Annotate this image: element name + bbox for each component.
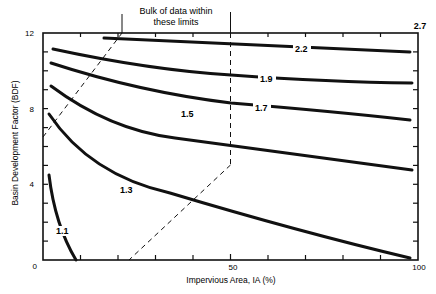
corner-label: 2.7 — [414, 21, 427, 31]
y-tick-4: 4 — [30, 180, 35, 189]
y-tick-12: 12 — [25, 29, 34, 38]
curve-1.5 — [51, 86, 412, 170]
y-tick-0: 0 — [33, 262, 38, 271]
svg-text:1.7: 1.7 — [255, 103, 268, 113]
svg-text:2.2: 2.2 — [295, 44, 308, 54]
y-tick-8: 8 — [30, 105, 35, 114]
x-tick-50: 50 — [229, 263, 238, 272]
data-limits — [43, 12, 231, 260]
chart: 2.2 1.9 1.7 1.5 1.3 1.1 Bulk of data wit… — [0, 0, 436, 294]
curve-2.2 — [104, 38, 410, 52]
annotation-line2: these limits — [153, 17, 199, 27]
svg-text:1.5: 1.5 — [181, 109, 194, 119]
annotation-line1: Bulk of data within — [139, 6, 212, 16]
svg-text:1.1: 1.1 — [56, 226, 69, 236]
y-axis-label: Basin Development Factor (BDF) — [10, 80, 20, 205]
svg-text:1.3: 1.3 — [120, 185, 133, 195]
x-axis-label: Impervious Area, IA (%) — [186, 275, 275, 285]
curve-1.3 — [49, 114, 410, 258]
svg-text:1.9: 1.9 — [260, 74, 273, 84]
x-tick-100: 100 — [412, 263, 426, 272]
curve-1.1 — [49, 175, 76, 260]
